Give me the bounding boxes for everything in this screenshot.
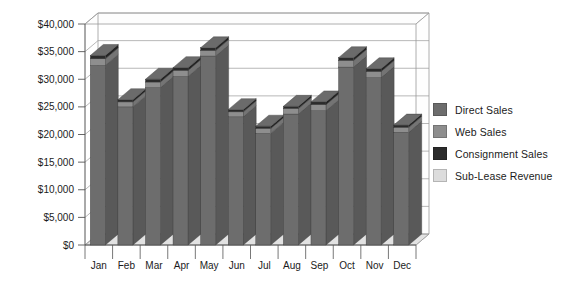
bar-segment-front-face (173, 70, 188, 76)
bar-segment-side-face (160, 77, 173, 245)
bar-segment-front-face (394, 125, 409, 127)
bar-segment-side-face (354, 56, 367, 245)
bar-segment-front-face (256, 126, 271, 128)
bar-column[interactable] (311, 91, 339, 245)
bar-segment-side-face (298, 103, 311, 245)
bar-segment-front-face (145, 82, 160, 88)
bar-segment-front-face (90, 55, 105, 58)
bar-segment-front-face (311, 102, 326, 105)
bar-segment-front-face (256, 128, 271, 133)
bar-segment-side-face (105, 54, 118, 245)
bar-segment-front-face (339, 60, 354, 67)
legend-label-sub-lease-revenue: Sub-Lease Revenue (455, 170, 552, 182)
x-axis-tick-label: Dec (393, 260, 411, 271)
legend-item-sub-lease-revenue[interactable]: Sub-Lease Revenue (433, 165, 576, 186)
bar-segment-front-face (228, 117, 243, 245)
bar-column[interactable] (228, 99, 256, 245)
bar-segment-front-face (394, 132, 409, 245)
bar-segment-side-face (326, 100, 339, 245)
y-axis-tick-label: $0 (63, 240, 75, 251)
grid-depth-connector (85, 41, 98, 52)
chart-legend: Direct Sales Web Sales Consignment Sales… (433, 99, 576, 187)
bar-segment-side-face (216, 45, 229, 245)
plot-box-top-face (85, 13, 429, 24)
x-axis-tick-label: May (200, 260, 219, 271)
bar-segment-side-face (381, 67, 394, 245)
bar-column[interactable] (201, 37, 229, 245)
x-axis-tick-label: Nov (366, 260, 384, 271)
bar-segment-side-face (243, 106, 256, 245)
bar-segment-front-face (394, 127, 409, 132)
y-axis-tick-label: $40,000 (38, 19, 75, 30)
bar-column[interactable] (394, 114, 422, 245)
bar-segment-front-face (366, 72, 381, 78)
bar-segment-front-face (228, 112, 243, 117)
y-axis-tick-label: $25,000 (38, 101, 75, 112)
bar-segment-front-face (201, 48, 216, 51)
bar-segment-front-face (366, 78, 381, 245)
legend-label-direct-sales: Direct Sales (455, 104, 513, 116)
bar-segment-front-face (173, 68, 188, 71)
bar-segment-front-face (311, 105, 326, 111)
bar-segment-front-face (311, 111, 326, 245)
legend-swatch-direct-sales (433, 103, 447, 116)
x-axis-tick-label: Jul (258, 260, 271, 271)
x-axis-tick-label: Feb (118, 260, 136, 271)
bar-segment-front-face (145, 79, 160, 82)
y-axis-tick-label: $15,000 (38, 157, 75, 168)
legend-swatch-consignment-sales (433, 147, 447, 160)
x-axis-tick-label: Jan (91, 260, 107, 271)
x-axis-tick-label: Jun (229, 260, 245, 271)
legend-item-direct-sales[interactable]: Direct Sales (433, 99, 576, 120)
bar-column[interactable] (339, 47, 367, 245)
bar-segment-front-face (283, 106, 298, 108)
y-axis-tick-label: $35,000 (38, 46, 75, 57)
x-axis-tick-label: Mar (145, 260, 163, 271)
bar-segment-front-face (118, 107, 133, 245)
bar-segment-front-face (283, 109, 298, 115)
legend-swatch-web-sales (433, 125, 447, 138)
bar-segment-front-face (339, 67, 354, 245)
y-axis-tick-label: $20,000 (38, 129, 75, 140)
bar-segment-front-face (366, 69, 381, 72)
bar-segment-front-face (118, 100, 133, 102)
legend-swatch-sub-lease-revenue (433, 169, 447, 182)
bar-segment-side-face (409, 121, 422, 245)
bar-segment-front-face (145, 88, 160, 245)
x-axis-tick-label: Sep (311, 260, 329, 271)
legend-label-web-sales: Web Sales (455, 126, 506, 138)
legend-label-consignment-sales: Consignment Sales (455, 148, 548, 160)
bar-column[interactable] (283, 95, 311, 245)
bar-column[interactable] (173, 57, 201, 245)
bar-segment-side-face (188, 65, 201, 245)
x-axis-tick-label: Oct (339, 260, 355, 271)
y-axis-tick-label: $10,000 (38, 184, 75, 195)
bar-segment-front-face (173, 76, 188, 245)
bar-column[interactable] (145, 68, 173, 245)
bar-column[interactable] (118, 89, 146, 245)
y-axis-tick-label: $5,000 (43, 212, 74, 223)
bar-segment-front-face (201, 56, 216, 245)
y-axis-tick-label: $30,000 (38, 74, 75, 85)
bar-segment-front-face (339, 58, 354, 61)
bar-column[interactable] (256, 115, 284, 245)
bar-segment-front-face (90, 65, 105, 245)
bar-segment-front-face (118, 102, 133, 107)
x-axis-tick-label: Aug (283, 260, 301, 271)
bar-segment-front-face (201, 51, 216, 57)
bar-segment-front-face (228, 110, 243, 112)
legend-item-consignment-sales[interactable]: Consignment Sales (433, 143, 576, 164)
bar-segment-front-face (256, 133, 271, 245)
bar-segment-front-face (90, 59, 105, 66)
bar-column[interactable] (366, 58, 394, 245)
x-axis-tick-label: Apr (174, 260, 190, 271)
bar-segment-side-face (133, 96, 146, 245)
bar-column[interactable] (90, 44, 118, 245)
legend-item-web-sales[interactable]: Web Sales (433, 121, 576, 142)
bar-segment-front-face (283, 114, 298, 245)
bar-segment-side-face (271, 122, 284, 245)
